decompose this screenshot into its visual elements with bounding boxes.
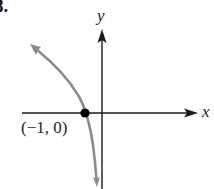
x-axis: [22, 109, 198, 118]
graph-figure: 8. y x (−1, 0): [0, 0, 214, 189]
graph-canvas: [0, 0, 214, 189]
point-label: (−1, 0): [21, 119, 67, 136]
x-intercept-point: [80, 108, 89, 117]
function-curve: [30, 44, 100, 187]
y-axis-label: y: [97, 7, 105, 24]
x-axis-label: x: [202, 103, 210, 120]
y-axis: [98, 29, 107, 189]
